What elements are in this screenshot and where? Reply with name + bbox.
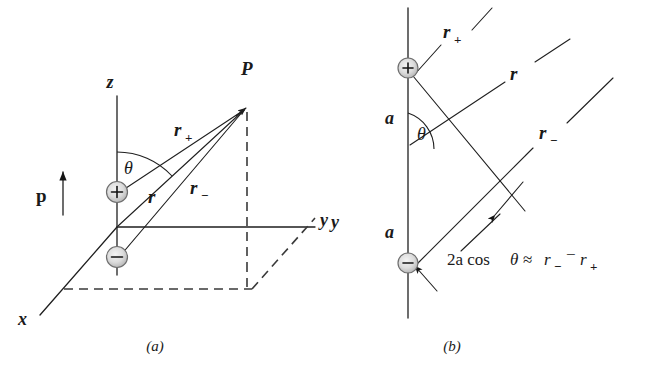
panel-b-geometry [398,8,613,318]
charge-positive-b [398,58,418,78]
equation-r-minus: r [544,250,551,269]
label-x-axis: x [17,309,27,329]
label-y-axis-b: y [329,212,340,232]
equation-lead: 2a cos [447,250,490,269]
equation-leader-line [461,214,500,251]
equation-r-plus-sub: + [590,259,597,274]
path-difference-lower-arrow [415,266,437,291]
label-r-plus-sub-b: + [454,32,461,47]
r-plus-segment [120,110,244,192]
label-r-minus-a: r − [190,177,208,203]
r-plus-ray-upper-b [472,8,492,30]
r-plus-ray-lower-b [415,45,441,74]
label-a-lower: a [385,222,394,242]
label-r-plus-base-b: r [443,21,451,42]
label-r-minus-sub-a: − [201,188,208,203]
path-difference-upper-arrow [495,182,523,215]
equation-approx: ≈ [523,250,532,269]
r-minus-ray-lower-b [416,148,533,265]
label-z-axis: z [105,72,113,92]
caption-panel-b: (b) [443,338,461,355]
r-minus-segment [120,110,244,256]
label-r-plus-sub-a: + [185,130,192,145]
charge-negative-b [398,253,418,273]
equation-theta: θ [510,250,518,269]
r-ray-upper-b [535,39,570,62]
label-y-axis: y [318,210,329,230]
label-r-center-b: r [510,63,518,84]
x-axis-line [40,227,117,315]
label-r-plus-b: r + [443,21,461,47]
equation-r-plus: r [580,250,587,269]
ground-plane-right-edge [252,218,315,289]
figure-root: z y x P p θ r + r r − (a) [0,0,646,374]
r-minus-ray-upper-b [567,78,613,123]
panel-a-canvas: z y x P p θ r + r r − (a) [0,0,646,374]
label-r-minus-b: r − [539,122,557,148]
equation-minus-operator: − [566,245,576,264]
label-point-p: P [240,58,253,79]
p-arrowhead [236,108,246,116]
label-dipole-moment: p [36,185,47,206]
label-r-minus-base-b: r [539,122,547,143]
label-r-minus-base-a: r [190,177,198,198]
charge-negative-a [107,247,128,268]
equation-r-minus-sub: − [554,259,561,274]
label-theta-b: θ [417,124,426,144]
label-theta-a: θ [124,158,133,178]
wavefront-line-b [413,76,525,211]
path-difference-equation: 2a cos θ ≈ r − − r + [447,245,597,274]
label-r-center-a: r [148,186,156,207]
charge-positive-a [107,182,128,203]
label-r-minus-sub-b: − [550,133,557,148]
label-a-upper: a [385,108,394,128]
label-r-plus-base-a: r [174,119,182,140]
label-r-plus-a: r + [174,119,192,145]
caption-panel-a: (a) [146,338,164,355]
